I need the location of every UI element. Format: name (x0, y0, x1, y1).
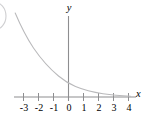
tick-label-x-2: 2 (92, 102, 106, 113)
tick-label-x--3: -3 (17, 102, 31, 113)
tick-label-layer: -3 -2 -1 0 1 2 3 4 x y (0, 0, 148, 123)
tick-label-x-4: 4 (122, 102, 136, 113)
tick-label-x-3: 3 (107, 102, 121, 113)
tick-label-x-0: 0 (62, 102, 76, 113)
tick-label-x--1: -1 (47, 102, 61, 113)
tick-label-x-1: 1 (77, 102, 91, 113)
x-axis-label: x (136, 88, 148, 99)
tick-label-x--2: -2 (32, 102, 46, 113)
y-axis-label: y (63, 2, 75, 13)
figure-container: -3 -2 -1 0 1 2 3 4 x y (0, 0, 148, 123)
